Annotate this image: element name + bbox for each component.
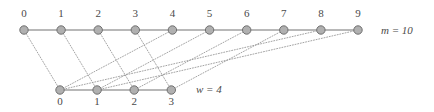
top-row-node: [131, 26, 139, 34]
mapping-edges-group: [26, 31, 354, 89]
top-row-node-label-1: 1: [51, 8, 71, 19]
top-row-side-label: m = 10: [381, 25, 413, 36]
top-row-node: [20, 26, 28, 34]
bottom-row-node: [130, 86, 138, 94]
mapping-edge: [63, 34, 95, 87]
bottom-row-node: [93, 86, 101, 94]
top-row-node: [57, 26, 65, 34]
top-row-node: [205, 26, 213, 34]
mapping-edge: [26, 34, 58, 87]
top-row-node-label-3: 3: [125, 8, 145, 19]
top-row-node: [168, 26, 176, 34]
top-row-node-label-5: 5: [200, 8, 220, 19]
top-row-node: [354, 26, 362, 34]
top-row-node-label-2: 2: [88, 8, 108, 19]
top-row-node: [243, 26, 251, 34]
mapping-edge: [101, 31, 354, 89]
top-row-node-label-6: 6: [237, 8, 257, 19]
top-row-node-label-4: 4: [162, 8, 182, 19]
top-row-node-label-0: 0: [14, 8, 34, 19]
mapping-edge: [64, 31, 317, 89]
bottom-row-node: [56, 86, 64, 94]
top-row-node: [317, 26, 325, 34]
bottom-row-node-label-3: 3: [161, 96, 181, 107]
bottom-row-node-label-0: 0: [50, 96, 70, 107]
figure-canvas: 0123456789 0123 m = 10 w = 4: [0, 0, 434, 112]
top-row-node-label-7: 7: [274, 8, 294, 19]
bottom-row-node-label-1: 1: [87, 96, 107, 107]
top-row-node-label-8: 8: [311, 8, 331, 19]
bottom-row-node-label-2: 2: [124, 96, 144, 107]
top-row-node: [94, 26, 102, 34]
top-row-node-label-9: 9: [348, 8, 368, 19]
top-row-node: [280, 26, 288, 34]
bottom-row-node: [167, 86, 175, 94]
bottom-row-side-label: w = 4: [196, 84, 222, 95]
